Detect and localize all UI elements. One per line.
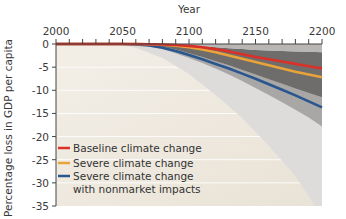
x-axis-title: Year xyxy=(177,3,201,15)
y-tick-label: -25 xyxy=(32,154,49,166)
y-axis-title: Percentage loss in GDP per capita xyxy=(2,39,14,217)
y-tick-label: -30 xyxy=(32,177,49,189)
legend-label-nonmarket-line1: Severe climate change xyxy=(73,170,194,182)
legend: Baseline climate change Severe climate c… xyxy=(58,142,202,195)
x-tick-label: 2200 xyxy=(309,25,336,37)
legend-label-severe: Severe climate change xyxy=(73,157,194,169)
x-tick-label: 2000 xyxy=(43,25,70,37)
gdp-loss-chart: 200020502100215022000-5-10-15-20-25-30-3… xyxy=(0,0,346,219)
x-tick-label: 2050 xyxy=(109,25,136,37)
legend-label-nonmarket-line2: with nonmarket impacts xyxy=(73,183,201,195)
y-tick-label: -20 xyxy=(32,131,49,143)
y-tick-label: -10 xyxy=(32,84,49,96)
y-tick-label: -15 xyxy=(32,107,49,119)
x-tick-label: 2150 xyxy=(242,25,269,37)
legend-label-baseline: Baseline climate change xyxy=(73,142,202,154)
y-tick-label: 0 xyxy=(42,38,49,50)
y-tick-label: -5 xyxy=(39,61,49,73)
y-tick-label: -35 xyxy=(32,200,49,212)
x-tick-label: 2100 xyxy=(176,25,203,37)
